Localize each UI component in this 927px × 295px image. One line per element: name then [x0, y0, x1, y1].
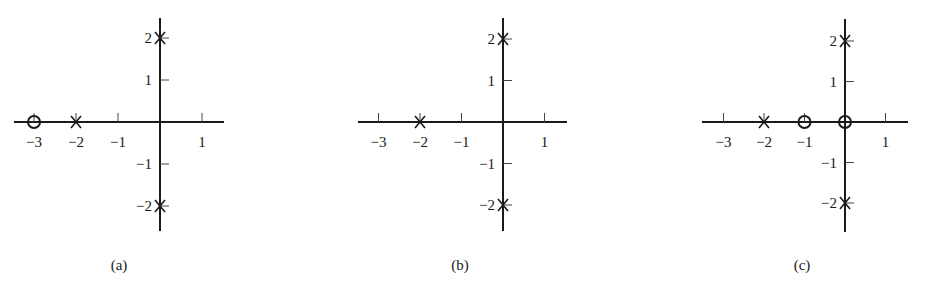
- panel-caption-c: (c): [794, 257, 811, 274]
- x-tick-label: 1: [882, 134, 890, 150]
- y-tick-label: 1: [830, 74, 838, 90]
- y-tick-label: −2: [821, 195, 837, 211]
- pole-zero-plot-c: −3−2−1121−1−2(c): [0, 0, 927, 295]
- y-tick-label: −1: [821, 155, 837, 171]
- plot-canvas-c: −3−2−1121−1−2: [0, 0, 927, 295]
- x-tick-label: −2: [756, 134, 772, 150]
- x-tick-label: −3: [716, 134, 732, 150]
- x-tick-label: −1: [797, 134, 813, 150]
- y-tick-label: 2: [830, 33, 838, 49]
